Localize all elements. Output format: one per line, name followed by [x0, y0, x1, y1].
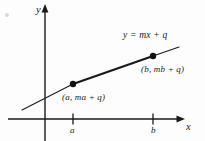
- point-marker-a: [70, 81, 76, 87]
- linear-function-diagram: y x a b y = mx + q (b, mb + q) (a, ma + …: [0, 0, 205, 141]
- y-axis-arrowhead: [42, 4, 49, 13]
- line-extension-right: [153, 47, 179, 56]
- tick-label-b: b: [151, 126, 156, 135]
- tick-label-a: a: [70, 126, 75, 135]
- x-axis-arrowhead: [177, 116, 186, 123]
- point-marker-b: [150, 53, 156, 59]
- x-axis-label: x: [186, 122, 191, 133]
- y-axis-label: y: [36, 5, 41, 16]
- x-axis: [8, 116, 185, 123]
- point-label-a: (a, ma + q): [62, 93, 105, 102]
- line-equation-label: y = mx + q: [123, 31, 167, 41]
- y-axis: [42, 4, 49, 141]
- point-label-b: (b, mb + q): [141, 65, 184, 74]
